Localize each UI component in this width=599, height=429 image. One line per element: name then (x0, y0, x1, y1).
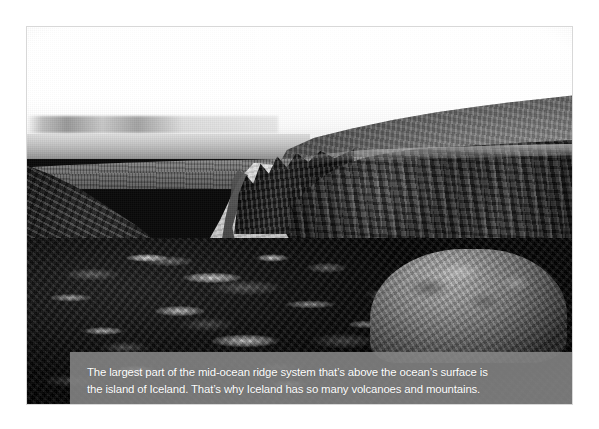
caption-line-2: the island of Iceland. That’s why Icelan… (87, 381, 558, 399)
photo-caption: The largest part of the mid-ocean ridge … (70, 352, 572, 404)
caption-line-1: The largest part of the mid-ocean ridge … (87, 364, 558, 382)
landscape-photograph (27, 27, 572, 404)
distant-plain (27, 134, 310, 159)
photo-figure: The largest part of the mid-ocean ridge … (27, 27, 572, 404)
mossy-boulder-texture (370, 249, 566, 362)
distant-mountains (27, 116, 278, 133)
